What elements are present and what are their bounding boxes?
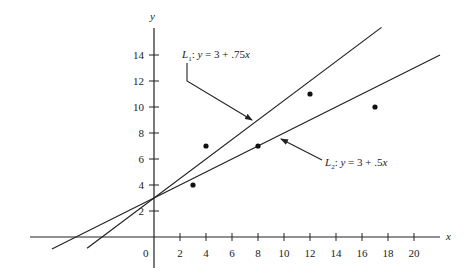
y-ticks: 2468101214 xyxy=(133,49,159,217)
data-point xyxy=(372,104,377,109)
data-point xyxy=(307,91,312,96)
x-tick-label: 14 xyxy=(331,247,343,259)
scatter-chart: x y 0 2468101214161820 2468101214 L1: y … xyxy=(0,0,475,277)
x-tick-label: 10 xyxy=(279,247,291,259)
l1-callout-arrow xyxy=(187,63,252,120)
y-axis-label: y xyxy=(149,10,155,22)
x-tick-label: 4 xyxy=(203,247,209,259)
l2-annotation: L2: y = 3 + .5x xyxy=(281,139,388,171)
data-points xyxy=(190,91,377,187)
l1-annotation: L1: y = 3 + .75x xyxy=(181,48,252,120)
origin-label: 0 xyxy=(143,247,149,259)
x-axis-label: x xyxy=(445,230,451,242)
x-tick-label: 6 xyxy=(229,247,235,259)
x-tick-label: 12 xyxy=(305,247,316,259)
l1-label: L1: y = 3 + .75x xyxy=(181,48,250,63)
data-point xyxy=(203,143,208,148)
y-tick-label: 4 xyxy=(139,179,145,191)
x-tick-label: 8 xyxy=(255,247,261,259)
data-point xyxy=(255,143,260,148)
y-tick-label: 6 xyxy=(139,153,145,165)
l2-line xyxy=(52,55,440,249)
l1-line xyxy=(87,27,381,248)
data-point xyxy=(190,182,195,187)
y-tick-label: 12 xyxy=(133,75,144,87)
l2-label: L2: y = 3 + .5x xyxy=(324,156,388,171)
y-tick-label: 14 xyxy=(133,49,145,61)
x-tick-label: 16 xyxy=(357,247,369,259)
x-tick-label: 20 xyxy=(409,247,421,259)
x-tick-label: 2 xyxy=(177,247,183,259)
y-tick-label: 10 xyxy=(133,101,145,113)
fit-lines xyxy=(52,27,440,249)
y-tick-label: 8 xyxy=(139,127,145,139)
x-tick-label: 18 xyxy=(383,247,395,259)
l2-callout-arrow xyxy=(281,139,322,160)
